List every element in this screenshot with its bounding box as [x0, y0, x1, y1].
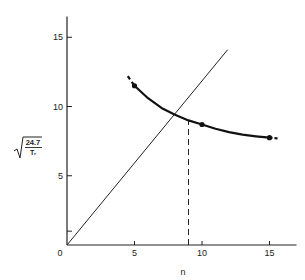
y-tick-label: 15	[53, 32, 63, 42]
x-tick-label: 15	[264, 248, 274, 258]
data-point-marker	[132, 83, 137, 88]
axes	[67, 16, 297, 245]
series-layer	[67, 50, 278, 245]
chart: 05101551015n24.7Tᵣ	[0, 0, 305, 280]
data-point-marker	[267, 135, 272, 140]
x-tick-label: 10	[197, 248, 207, 258]
y-tick-label: 5	[58, 171, 63, 181]
ylabel-denominator: Tᵣ	[30, 149, 36, 156]
data-point-marker	[199, 122, 204, 127]
x-axis-label: n	[180, 267, 185, 277]
y-axis-label: 24.7Tᵣ	[14, 137, 42, 158]
y-tick-label: 10	[53, 102, 63, 112]
ylabel-numerator: 24.7	[26, 138, 41, 147]
line-y-equals-n	[67, 50, 228, 245]
labels-layer: 05101551015n24.7Tᵣ	[14, 32, 275, 277]
curve-solid	[135, 86, 270, 138]
x-tick-label: 0	[57, 248, 62, 258]
x-tick-label: 5	[132, 248, 137, 258]
